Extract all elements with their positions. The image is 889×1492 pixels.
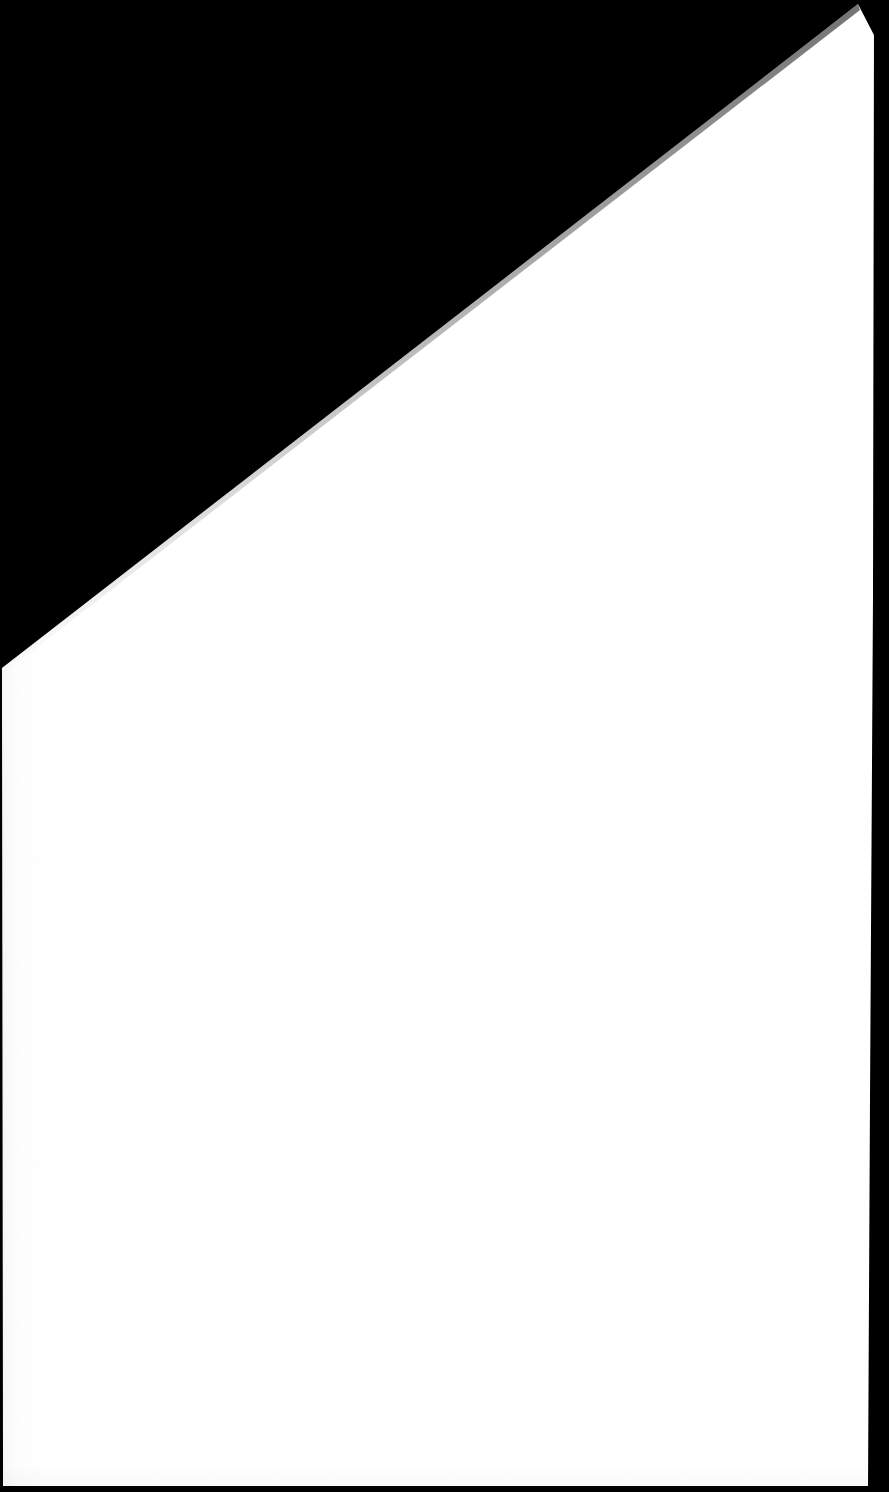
page-text-area <box>62 746 827 1402</box>
scanned-page-canvas: scanned-blank-page <box>0 0 889 1492</box>
